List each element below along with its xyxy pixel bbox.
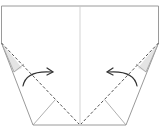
origami-diagram: [0, 0, 160, 137]
